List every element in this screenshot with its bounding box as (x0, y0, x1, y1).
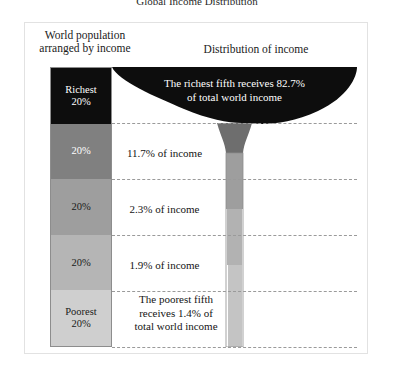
quintile-second[interactable]: 20% (51, 124, 111, 180)
divider-1 (112, 123, 357, 124)
header-world-population: World population arranged by income (29, 29, 141, 55)
divider-bottom (112, 347, 357, 348)
quintile-poorest[interactable]: Poorest20% (51, 290, 111, 346)
income-label-third: 2.3% of income (112, 203, 217, 216)
income-label-second: 11.7% of income (112, 147, 217, 160)
quintile-richest[interactable]: Richest20% (51, 68, 111, 124)
population-quintile-bar: Richest20% 20% 20% 20% Poorest20% (50, 67, 112, 347)
income-label-richest-line1: The richest fifth receives 82.7% (132, 77, 337, 91)
glass-stem-third (226, 153, 243, 209)
header-distribution-of-income: Distribution of income (151, 43, 361, 56)
income-label-poorest-line1: The poorest fifth (120, 293, 232, 307)
quintile-poorest-label: Poorest20% (65, 306, 97, 330)
quintile-third[interactable]: 20% (51, 179, 111, 235)
quintile-second-label: 20% (71, 145, 90, 157)
divider-3 (112, 235, 357, 236)
glass-stem-fourth (227, 209, 242, 265)
income-label-fourth: 1.9% of income (112, 259, 217, 272)
income-label-poorest-line3: total world income (120, 320, 232, 334)
header-left-line1: World population (29, 29, 141, 42)
glass-stem-second (217, 123, 252, 153)
header-left-line2: arranged by income (29, 42, 141, 55)
quintile-fourth-label: 20% (71, 257, 90, 269)
income-distribution-glass: The richest fifth receives 82.7% of tota… (112, 67, 357, 347)
divider-2 (112, 179, 357, 180)
income-label-richest-line2: of total world income (132, 91, 337, 105)
chart-frame: World population arranged by income Dist… (24, 22, 368, 354)
income-label-poorest-line2: receives 1.4% of (120, 307, 232, 321)
page-title: Global Income Distribution (0, 0, 394, 6)
quintile-fourth[interactable]: 20% (51, 235, 111, 291)
income-label-richest: The richest fifth receives 82.7% of tota… (132, 77, 337, 104)
quintile-richest-label: Richest20% (65, 84, 97, 108)
divider-4 (112, 291, 357, 292)
quintile-third-label: 20% (71, 201, 90, 213)
income-label-poorest: The poorest fifth receives 1.4% of total… (120, 293, 232, 334)
